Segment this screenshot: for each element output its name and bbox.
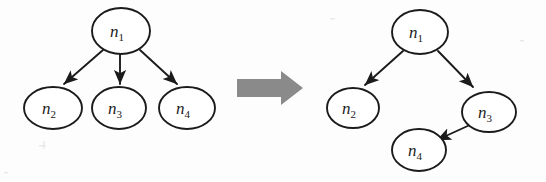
- edge-n1-to-n4: [140, 50, 177, 84]
- after-graph: n1 n2 n3 n4: [327, 10, 516, 171]
- node-n4[interactable]: n4: [392, 129, 446, 171]
- node-n2[interactable]: n2: [24, 87, 82, 129]
- node-n4[interactable]: n4: [159, 87, 215, 129]
- edge-n1-to-n2: [365, 51, 403, 85]
- node-n3[interactable]: n3: [92, 87, 146, 129]
- after-graph-edges: [365, 51, 473, 140]
- edge-n1-to-n3: [438, 51, 473, 87]
- node-n1[interactable]: n1: [92, 8, 150, 54]
- edge-n3-to-n4: [437, 124, 472, 140]
- after-graph-nodes: n1 n2 n3 n4: [327, 10, 516, 171]
- edge-n1-to-n2: [64, 50, 103, 84]
- before-graph-edges: [64, 50, 177, 84]
- graph-transformation-figure: n1 n2 n3 n4: [0, 0, 546, 182]
- before-graph: n1 n2 n3 n4: [24, 8, 215, 129]
- transform-arrow-icon: [237, 71, 303, 105]
- node-n2[interactable]: n2: [327, 88, 379, 128]
- node-n1[interactable]: n1: [392, 10, 448, 54]
- figure-canvas: n1 n2 n3 n4: [0, 0, 546, 182]
- node-n3[interactable]: n3: [462, 92, 516, 132]
